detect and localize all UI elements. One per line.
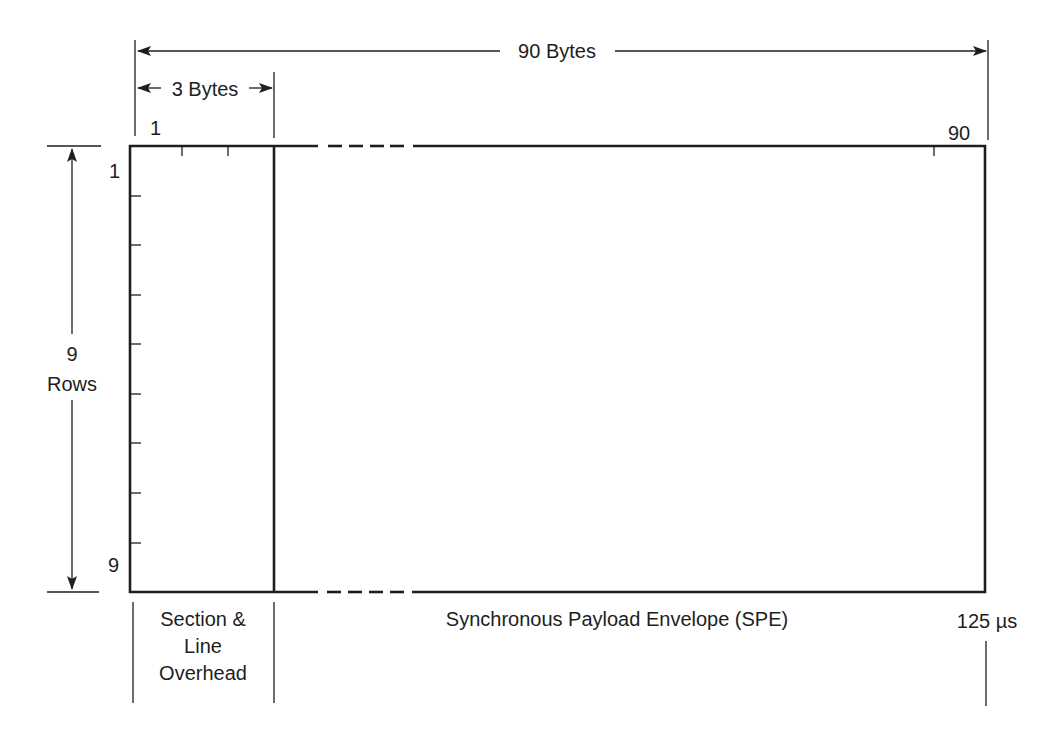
overhead-label-line2: Line	[159, 633, 247, 660]
row-label-last: 9	[108, 555, 119, 575]
frame-outline	[129, 145, 986, 593]
height-dimension-unit: Rows	[45, 372, 99, 396]
overhead-label-line3: Overhead	[159, 660, 247, 687]
column-label-last: 90	[948, 123, 970, 143]
overhead-dimension-label: 3 Bytes	[170, 79, 241, 99]
column-label-first: 1	[150, 118, 161, 138]
row-label-first: 1	[109, 161, 120, 181]
height-dimension-line	[47, 146, 101, 592]
column-ticks	[182, 146, 934, 156]
overhead-label-line1: Section &	[159, 606, 247, 633]
time-marker-label: 125 µs	[957, 611, 1017, 631]
row-ticks	[130, 196, 141, 543]
overhead-region-label: Section & Line Overhead	[159, 606, 247, 687]
width-dimension-label: 90 Bytes	[512, 41, 602, 61]
payload-region-label: Synchronous Payload Envelope (SPE)	[446, 609, 788, 629]
height-dimension-count: 9	[62, 342, 81, 366]
